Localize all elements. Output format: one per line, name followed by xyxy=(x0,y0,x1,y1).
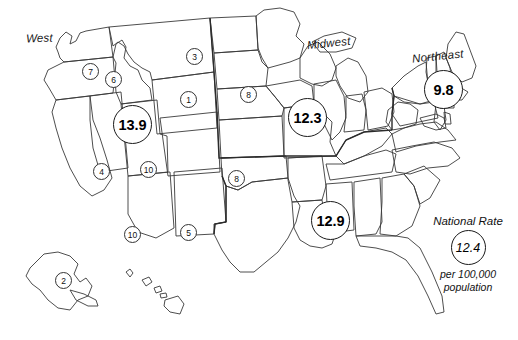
rank-circle-kansas[interactable]: 8 xyxy=(228,170,245,187)
us-region-rate-map: West Midwest Northeast 13.9 12.3 9.8 12.… xyxy=(0,0,518,340)
region-label-midwest: Midwest xyxy=(306,35,351,51)
legend-unit-line2: population xyxy=(424,281,512,294)
legend-rate-bubble[interactable]: 12.4 xyxy=(451,230,486,265)
map-annotation-layer: West Midwest Northeast 13.9 12.3 9.8 12.… xyxy=(0,0,518,340)
legend-title: National Rate xyxy=(424,215,512,227)
national-rate-legend: National Rate 12.4 per 100,000 populatio… xyxy=(424,215,512,293)
rank-circle-montana[interactable]: 3 xyxy=(186,48,203,65)
rank-circle-wyoming[interactable]: 1 xyxy=(180,91,197,108)
rate-bubble-west[interactable]: 13.9 xyxy=(113,105,152,144)
rank-circle-new-mexico[interactable]: 5 xyxy=(180,224,197,241)
rank-circle-nevada[interactable]: 4 xyxy=(93,163,110,180)
rank-circle-colorado[interactable]: 10 xyxy=(140,161,157,178)
rank-circle-idaho[interactable]: 6 xyxy=(105,71,122,88)
rate-bubble-midwest[interactable]: 12.3 xyxy=(288,98,327,137)
rate-bubble-northeast[interactable]: 9.8 xyxy=(424,70,463,109)
rank-circle-alaska[interactable]: 2 xyxy=(55,272,72,289)
rate-bubble-south[interactable]: 12.9 xyxy=(311,201,350,240)
rank-circle-oregon[interactable]: 7 xyxy=(82,63,99,80)
rank-circle-south-dakota[interactable]: 8 xyxy=(240,86,257,103)
region-label-west: West xyxy=(26,32,53,45)
legend-unit-line1: per 100,000 xyxy=(424,268,512,281)
rank-circle-arizona[interactable]: 10 xyxy=(124,226,141,243)
region-label-northeast: Northeast xyxy=(412,47,465,64)
